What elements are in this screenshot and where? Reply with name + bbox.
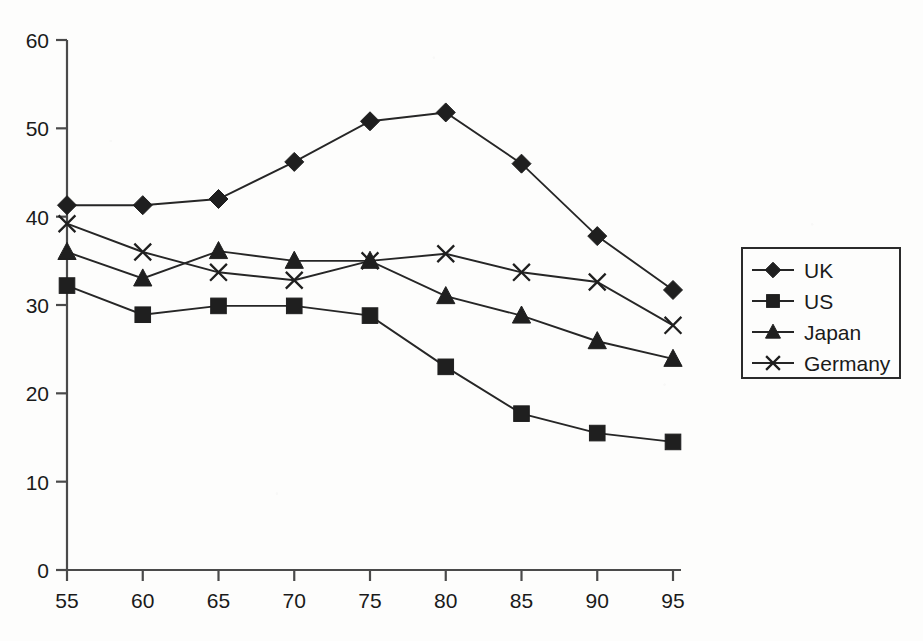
x-tick-label: 90 bbox=[586, 589, 609, 612]
marker-triangle-japan bbox=[209, 242, 227, 259]
marker-triangle-japan bbox=[58, 242, 76, 259]
chart-canvas: 0102030405060556065707580859095UKUSJapan… bbox=[0, 0, 923, 641]
marker-diamond-uk bbox=[664, 280, 683, 299]
legend-label-us: US bbox=[804, 290, 833, 313]
marker-diamond-uk bbox=[436, 103, 455, 122]
marker-diamond-uk bbox=[58, 196, 77, 215]
marker-square-legend-us bbox=[767, 295, 780, 308]
marker-square-us bbox=[514, 406, 530, 422]
y-tick-label: 20 bbox=[26, 382, 49, 405]
marker-square-us bbox=[362, 308, 378, 324]
x-tick-label: 85 bbox=[510, 589, 533, 612]
marker-square-us bbox=[286, 298, 302, 314]
legend-label-germany: Germany bbox=[804, 352, 891, 375]
marker-triangle-japan bbox=[437, 287, 455, 304]
marker-triangle-japan bbox=[588, 332, 606, 349]
x-tick-label: 65 bbox=[207, 589, 230, 612]
marker-diamond-uk bbox=[361, 112, 380, 131]
y-tick-label: 40 bbox=[26, 206, 49, 229]
marker-square-us bbox=[438, 359, 454, 375]
y-tick-label: 30 bbox=[26, 294, 49, 317]
x-tick-label: 70 bbox=[283, 589, 306, 612]
x-tick-label: 55 bbox=[55, 589, 78, 612]
x-tick-label: 95 bbox=[661, 589, 684, 612]
y-tick-label: 50 bbox=[26, 117, 49, 140]
marker-square-us bbox=[59, 278, 75, 294]
x-tick-label: 60 bbox=[131, 589, 154, 612]
marker-square-us bbox=[665, 434, 681, 450]
x-tick-label: 80 bbox=[434, 589, 457, 612]
marker-cross-germany bbox=[134, 244, 151, 261]
y-tick-label: 10 bbox=[26, 471, 49, 494]
y-tick-label: 60 bbox=[26, 29, 49, 52]
line-chart: 0102030405060556065707580859095UKUSJapan… bbox=[0, 0, 923, 641]
marker-square-us bbox=[135, 307, 151, 323]
x-tick-label: 75 bbox=[358, 589, 381, 612]
marker-triangle-japan bbox=[134, 269, 152, 286]
marker-square-us bbox=[589, 425, 605, 441]
marker-square-us bbox=[211, 298, 227, 314]
legend-label-japan: Japan bbox=[804, 321, 861, 344]
marker-diamond-uk bbox=[209, 190, 228, 209]
legend-label-uk: UK bbox=[804, 259, 833, 282]
marker-diamond-uk bbox=[285, 152, 304, 171]
marker-diamond-legend-uk bbox=[765, 262, 781, 278]
marker-cross-germany bbox=[665, 317, 682, 334]
marker-diamond-uk bbox=[133, 196, 152, 215]
y-tick-label: 0 bbox=[37, 559, 49, 582]
